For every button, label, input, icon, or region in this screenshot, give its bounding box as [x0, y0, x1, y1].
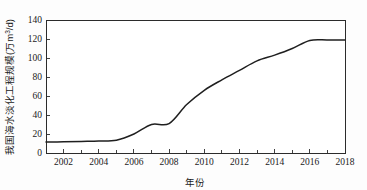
y-tick-label: 0 [37, 148, 42, 158]
x-tick-label: 2016 [300, 157, 319, 167]
y-axis-title-tail: /d) [4, 19, 15, 30]
x-tick-label: 2002 [54, 157, 73, 167]
x-tick-label: 2004 [89, 157, 108, 167]
y-axis-title-main: 我国海水淡化工程规模(万m [4, 34, 15, 155]
y-tick-label: 40 [33, 110, 43, 120]
line-chart: 020406080100120140 200220042006200820102… [0, 0, 367, 190]
y-tick-label: 60 [33, 91, 43, 101]
x-tick-label: 2010 [195, 157, 214, 167]
plot-area-background [46, 20, 345, 153]
svg-text:我国海水淡化工程规模(万m3/d): 我国海水淡化工程规模(万m3/d) [4, 19, 15, 155]
y-tick-label: 120 [28, 34, 43, 44]
y-axis-title: 我国海水淡化工程规模(万m3/d) [4, 19, 15, 155]
chart-figure: 020406080100120140 200220042006200820102… [0, 0, 367, 190]
y-tick-label: 100 [28, 53, 43, 63]
y-tick-label: 20 [33, 129, 43, 139]
y-tick-label: 80 [33, 72, 43, 82]
y-tick-label: 140 [28, 15, 43, 25]
x-tick-label: 2014 [265, 157, 284, 167]
x-tick-label: 2006 [124, 157, 143, 167]
x-tick-label: 2018 [336, 157, 355, 167]
x-tick-label: 2008 [160, 157, 179, 167]
x-axis-title: 年份 [185, 177, 205, 188]
x-tick-label: 2012 [230, 157, 249, 167]
